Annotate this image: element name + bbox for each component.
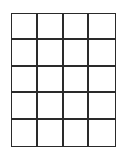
grid-cell [38, 67, 64, 93]
grid-cell [38, 120, 64, 146]
grid-cell [89, 120, 115, 146]
grid-cell [89, 93, 115, 119]
grid-diagram [11, 13, 116, 147]
grid-cell [89, 14, 115, 40]
grid-cell [89, 40, 115, 66]
grid-cell [12, 40, 38, 66]
grid-cell [64, 93, 90, 119]
grid-cell [38, 14, 64, 40]
grid-cell [64, 67, 90, 93]
grid-cell [12, 93, 38, 119]
grid-cell [38, 93, 64, 119]
grid-cell [89, 67, 115, 93]
grid-cell [64, 14, 90, 40]
grid-cell [12, 14, 38, 40]
grid-cell [64, 40, 90, 66]
grid-cell [38, 40, 64, 66]
grid-cell [12, 67, 38, 93]
grid-cell [64, 120, 90, 146]
grid-cell [12, 120, 38, 146]
